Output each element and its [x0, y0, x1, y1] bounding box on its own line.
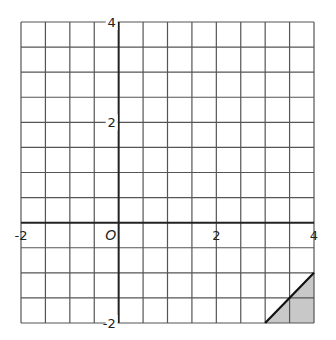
coordinate-plane: -22442-2O	[0, 0, 336, 340]
x-tick-label: -2	[15, 228, 28, 243]
x-tick-label: 4	[310, 228, 318, 243]
x-tick-label: 2	[212, 228, 220, 243]
y-tick-label: -2	[103, 316, 116, 331]
y-tick-label: 2	[107, 115, 115, 130]
y-tick-label: 4	[107, 15, 115, 30]
origin-label: O	[105, 227, 116, 243]
